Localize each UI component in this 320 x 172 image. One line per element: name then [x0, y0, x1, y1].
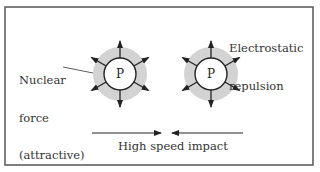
electrostatic-line-1: Electrostatic — [229, 42, 303, 55]
proton-label: P — [116, 67, 124, 81]
nuclear-force-line-2: force — [19, 112, 84, 125]
electrostatic-repulsion-label: Electrostatic repulsion — [229, 17, 303, 105]
electrostatic-line-2: repulsion — [229, 80, 303, 93]
high-speed-impact-label: High speed impact — [118, 140, 228, 153]
proton-label: P — [207, 67, 215, 81]
proton-left: P — [91, 41, 148, 107]
nuclear-force-label: Nuclear force (attractive) — [19, 49, 84, 172]
nuclear-force-line-3: (attractive) — [19, 149, 84, 162]
nuclear-force-line-1: Nuclear — [19, 74, 84, 87]
